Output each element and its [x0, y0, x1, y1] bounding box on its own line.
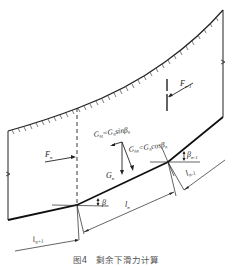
arrow-head: [110, 143, 115, 146]
arrow-head: [71, 155, 76, 159]
dimension-line-l-n: [84, 192, 174, 232]
normal-line-n-minus-1: [168, 162, 176, 196]
label-g-nn-formula: Gnn=Gncosβn: [128, 140, 168, 155]
sliding-force-diagram: Fn-1 Fn Gnt=Gnsinβn Gn Gnn=Gncosβn βn βn…: [0, 0, 232, 266]
label-l-n-plus-1: ln+1: [32, 234, 44, 245]
label-g-n: Gn: [106, 171, 115, 181]
label-l-n-minus-1: ln-1: [184, 166, 196, 179]
figure-caption: 图4 剩余下滑力计算: [73, 255, 159, 265]
dimension-line-l-n-plus-1: [15, 240, 78, 251]
arrow-head: [130, 165, 134, 171]
label-beta-n: βn: [101, 198, 109, 208]
ground-surface-line: [8, 10, 223, 131]
arrow-head: [120, 170, 124, 175]
label-f-n-minus-1: Fn-1: [179, 79, 192, 89]
ground-hatching: [12, 17, 218, 134]
label-f-n: Fn: [44, 150, 53, 160]
normal-line-n-minus-1-2: [168, 162, 184, 190]
arrow-head: [75, 239, 79, 242]
label-beta-n-minus-1: βn-1: [186, 150, 198, 160]
label-g-nt-formula: Gnt=Gnsinβn: [93, 125, 131, 140]
arrow-head: [168, 93, 173, 97]
arrow-head: [184, 186, 189, 190]
label-l-n: ln: [125, 200, 130, 210]
